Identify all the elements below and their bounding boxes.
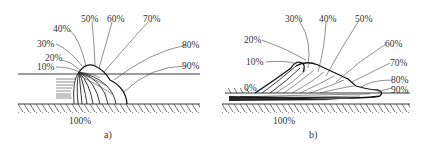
ground-hatch-b <box>222 104 410 113</box>
contour-lines-a <box>74 72 116 104</box>
label-90pct-b: 90% <box>391 85 409 95</box>
label-60pct-b: 60% <box>385 39 403 49</box>
ground-hatch <box>18 104 200 113</box>
label-30pct-b: 30% <box>285 14 303 24</box>
caption-a: a) <box>104 129 112 141</box>
label-70pct-b: 70% <box>390 58 408 68</box>
label-100pct-a: 100% <box>69 116 91 126</box>
label-90pct-a: 90% <box>182 61 200 71</box>
label-10pct-a: 10% <box>37 62 55 72</box>
label-20pct-a: 20% <box>45 53 63 63</box>
label-70pct-a: 70% <box>143 14 161 24</box>
label-50pct-b: 50% <box>355 14 373 24</box>
figure-a: 10% 20% 30% 40% 50% 60% 70% 80% 90% 100%… <box>18 14 200 141</box>
label-30pct-a: 30% <box>37 39 55 49</box>
label-80pct-b: 80% <box>391 75 409 85</box>
figure-b: 0% 10% 20% 30% 40% 50% 60% 70% 80% 90% 1… <box>222 14 410 141</box>
label-50pct-a: 50% <box>81 14 99 24</box>
leader-lines-a <box>56 22 186 92</box>
inflow-streamlines <box>56 79 76 98</box>
label-0pct-b: 0% <box>244 83 257 93</box>
label-40pct-b: 40% <box>319 14 337 24</box>
label-80pct-a: 80% <box>182 40 200 50</box>
label-60pct-a: 60% <box>107 14 125 24</box>
label-40pct-a: 40% <box>53 24 71 34</box>
label-20pct-b: 20% <box>244 35 262 45</box>
leader-lines-b <box>262 22 392 92</box>
label-100pct-b: 100% <box>273 116 295 126</box>
diagram-canvas: 10% 20% 30% 40% 50% 60% 70% 80% 90% 100%… <box>0 0 422 150</box>
label-10pct-b: 10% <box>246 57 264 67</box>
contour-lines-b <box>240 66 370 99</box>
caption-b: b) <box>309 129 317 141</box>
